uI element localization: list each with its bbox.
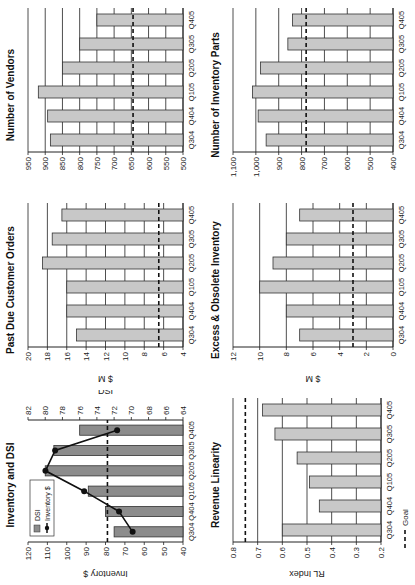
x-tick-label: Q205 <box>187 59 196 77</box>
legend-swatch-dsi <box>34 525 40 532</box>
chart-inventory-parts: 4005006007008009001,0001,100Q304Q404Q105… <box>225 0 415 190</box>
y-tick-label: 80 <box>102 546 111 555</box>
y-tick-label: 10 <box>121 351 130 360</box>
y-tick-label: 900 <box>275 156 284 170</box>
y-tick-label: 500 <box>179 156 188 170</box>
bar <box>309 476 381 488</box>
x-tick-label: Q304 <box>397 326 406 344</box>
y2-tick-label: 76 <box>76 406 85 415</box>
data-point <box>52 448 58 454</box>
data-point <box>81 488 87 494</box>
x-tick-label: Q404 <box>397 302 406 320</box>
y2-tick-label: 72 <box>110 406 119 415</box>
bar <box>286 233 393 245</box>
x-tick-label: Q405 <box>397 206 406 224</box>
bar <box>97 14 183 26</box>
y-tick-label: 100 <box>63 546 72 560</box>
y2-tick-label: 68 <box>145 406 154 415</box>
y-tick-label: 16 <box>63 351 72 360</box>
bar <box>67 281 183 293</box>
x-tick-label: Q405 <box>385 401 394 419</box>
x-tick-label: Q105 <box>187 278 196 296</box>
x-tick-label: Q404 <box>385 497 394 515</box>
y-tick-label: 500 <box>366 156 375 170</box>
y-tick-label: 0.6 <box>278 546 287 558</box>
y-tick-label: 14 <box>82 351 91 360</box>
panel-excess-obsolete: Excess & Obsolete Inventory 024681012$ M… <box>210 195 415 385</box>
panel-past-due: Past Due Customer Orders 468101214161820… <box>5 195 205 385</box>
y-axis-label: Inventory $ <box>83 569 128 579</box>
x-tick-label: Q305 <box>397 230 406 248</box>
y2-axis-label: DSI <box>98 390 113 396</box>
y-tick-label: 70 <box>121 546 130 555</box>
y-tick-label: 1,000 <box>252 156 261 177</box>
y-tick-label: 400 <box>389 156 398 170</box>
y-tick-label: 0.7 <box>254 546 263 558</box>
y-tick-label: 2 <box>362 351 371 356</box>
bar <box>273 257 393 269</box>
chart-title: Past Due Customer Orders <box>5 195 16 385</box>
bar <box>260 281 393 293</box>
x-tick-label: Q405 <box>187 421 196 439</box>
bar <box>76 329 183 341</box>
y-tick-label: 0.8 <box>229 546 238 558</box>
bar <box>38 86 183 98</box>
y-tick-label: 90 <box>82 546 91 555</box>
x-tick-label: Q205 <box>187 462 196 480</box>
y-tick-label: 10 <box>256 351 265 360</box>
bar <box>275 428 381 440</box>
x-tick-label: Q205 <box>385 449 394 467</box>
y2-tick-label: 74 <box>93 406 102 415</box>
bar <box>54 445 183 455</box>
y-tick-label: 750 <box>93 156 102 170</box>
x-tick-label: Q405 <box>187 206 196 224</box>
y2-tick-label: 70 <box>127 406 136 415</box>
chart-title: Number of Vendors <box>5 0 16 190</box>
x-tick-label: Q105 <box>187 482 196 500</box>
panel-revenue-linearity: Revenue Linearity 0.20.30.40.50.60.70.8R… <box>210 390 415 580</box>
x-tick-label: Q105 <box>385 473 394 491</box>
bar <box>80 425 183 435</box>
x-tick-label: Q105 <box>397 83 406 101</box>
legend-marker <box>45 526 49 530</box>
bar <box>288 38 393 50</box>
panel-inventory-parts: Number of Inventory Parts 40050060070080… <box>210 0 415 190</box>
bar <box>80 38 183 50</box>
legend-label-dsi: DSI <box>34 509 41 521</box>
y-tick-label: 950 <box>24 156 33 170</box>
x-tick-label: Q404 <box>187 502 196 520</box>
y-tick-label: 600 <box>343 156 352 170</box>
legend-label-inventory: Inventory $ <box>44 486 52 521</box>
y-tick-label: 12 <box>102 351 111 360</box>
y-tick-label: 0.5 <box>303 546 312 558</box>
y-tick-label: 8 <box>140 351 149 356</box>
bar <box>62 62 183 74</box>
bar <box>300 209 393 221</box>
y-tick-label: 0 <box>389 351 398 356</box>
y-tick-label: 110 <box>43 546 52 559</box>
x-tick-label: Q305 <box>187 35 196 53</box>
y2-tick-label: 66 <box>162 406 171 415</box>
data-point <box>116 509 122 515</box>
y-tick-label: 1,100 <box>229 156 238 177</box>
y-tick-label: 0.2 <box>377 546 386 558</box>
bar <box>67 305 183 317</box>
y-tick-label: 850 <box>58 156 67 170</box>
x-tick-label: Q105 <box>187 83 196 101</box>
y2-tick-label: 78 <box>58 406 67 415</box>
y-tick-label: 800 <box>76 156 85 170</box>
bar <box>266 134 393 146</box>
bar <box>45 466 183 476</box>
bar <box>252 86 393 98</box>
y-tick-label: 550 <box>162 156 171 170</box>
y-tick-label: 700 <box>110 156 119 170</box>
y-tick-label: 40 <box>179 546 188 555</box>
bar <box>286 305 393 317</box>
y-tick-label: 0.3 <box>352 546 361 558</box>
panel-inventory-dsi: Inventory and DSI 405060708090100110120I… <box>5 390 205 580</box>
bar <box>260 62 393 74</box>
chart-title: Excess & Obsolete Inventory <box>210 195 221 385</box>
x-tick-label: Q205 <box>397 59 406 77</box>
legend: DSIInventory $ <box>30 480 54 536</box>
x-tick-label: Q404 <box>397 107 406 125</box>
